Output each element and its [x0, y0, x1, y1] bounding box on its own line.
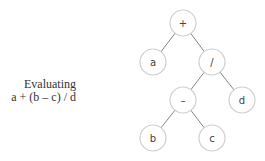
node-c: c — [199, 125, 225, 151]
svg-text:–: – — [181, 95, 186, 106]
svg-text:a: a — [150, 57, 156, 68]
edges — [153, 23, 242, 138]
svg-text:d: d — [239, 95, 245, 106]
node-divide: / — [199, 49, 225, 75]
expression-tree: + a / – d b c — [0, 0, 265, 161]
node-d: d — [229, 87, 255, 113]
svg-text:c: c — [209, 133, 215, 144]
svg-text:+: + — [179, 18, 187, 29]
node-b: b — [140, 125, 166, 151]
svg-text:b: b — [150, 133, 156, 144]
node-a: a — [140, 49, 166, 75]
node-plus: + — [170, 10, 196, 36]
node-minus: – — [170, 87, 196, 113]
